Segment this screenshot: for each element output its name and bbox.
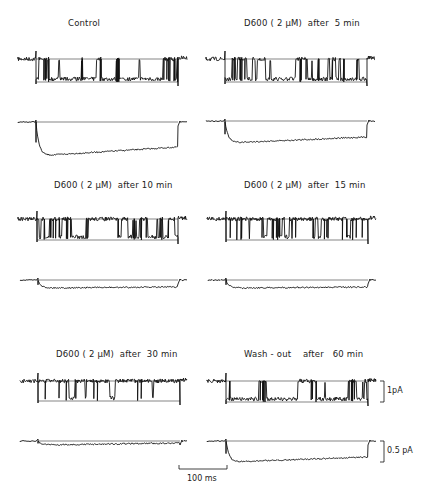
single-channel-trace-d600-15min xyxy=(207,211,376,244)
single-channel-trace-washout-60min xyxy=(207,373,376,406)
single-channel-trace-d600-5min xyxy=(206,51,375,86)
average-current-trace-washout-60min xyxy=(207,439,376,462)
average-current-trace-d600-30min xyxy=(20,439,187,445)
single-channel-trace-control xyxy=(18,51,187,86)
average-current-trace-d600-5min xyxy=(206,119,375,143)
single-channel-trace-d600-30min xyxy=(20,373,187,405)
time-scale-bar xyxy=(179,465,227,469)
average-current-trace-control xyxy=(18,120,187,155)
current-scale-bar-05pa xyxy=(380,441,384,462)
average-current-trace-d600-10min xyxy=(20,278,187,289)
figure: Control D600 ( 2 µM) after 5 min D600 ( … xyxy=(0,0,429,500)
single-channel-trace-d600-10min xyxy=(18,211,187,244)
time-scale-label: 100 ms xyxy=(187,474,217,483)
current-scale-label-1pa: 1pA xyxy=(387,386,403,395)
average-current-trace-d600-15min xyxy=(208,278,376,289)
traces-canvas xyxy=(0,0,429,500)
current-scale-bar-1pa xyxy=(380,381,384,402)
current-scale-label-05pa: 0.5 pA xyxy=(387,446,413,455)
